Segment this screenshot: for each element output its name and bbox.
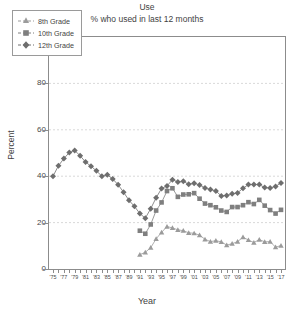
x-tick-mark: [227, 269, 228, 273]
diamond-marker: [224, 192, 230, 198]
x-tick-label: '17: [273, 274, 289, 280]
diamond-marker: [121, 189, 127, 195]
x-tick-mark: [276, 269, 277, 273]
triangle-marker: [213, 238, 218, 243]
x-tick-mark: [270, 269, 271, 273]
diamond-marker: [175, 179, 181, 185]
x-tick-mark: [53, 269, 54, 273]
x-tick-mark: [216, 269, 217, 273]
x-tick-mark: [64, 269, 65, 273]
x-tick-mark: [194, 269, 195, 273]
triangle-marker-icon: [18, 15, 34, 27]
x-tick-mark: [107, 269, 108, 273]
legend-label-12th: 12th Grade: [34, 41, 74, 50]
diamond-marker: [278, 180, 284, 186]
x-tick-mark: [134, 269, 135, 273]
diamond-marker: [159, 185, 165, 191]
square-marker-icon: [18, 27, 34, 39]
plot-area: [48, 36, 286, 270]
diamond-marker: [153, 195, 159, 201]
x-tick-mark: [210, 269, 211, 273]
triangle-marker: [278, 243, 283, 248]
triangle-marker: [137, 252, 142, 257]
x-tick-mark: [69, 269, 70, 273]
square-marker: [235, 205, 240, 210]
x-tick-mark: [91, 269, 92, 273]
triangle-marker: [229, 241, 234, 246]
series-line-10th-grade: [140, 188, 281, 233]
square-marker: [252, 202, 257, 207]
diamond-marker: [251, 182, 257, 188]
legend-label-10th: 10th Grade: [34, 29, 74, 38]
triangle-marker: [164, 224, 169, 229]
x-tick-mark: [248, 269, 249, 273]
square-marker: [186, 192, 191, 197]
square-marker: [230, 205, 235, 210]
legend-item-10th[interactable]: 10th Grade: [18, 27, 74, 39]
x-tick-mark: [259, 269, 260, 273]
diamond-marker: [245, 182, 251, 188]
triangle-marker: [186, 230, 191, 235]
legend-label-8th: 8th Grade: [34, 17, 70, 26]
y-tick-label: 20: [8, 218, 46, 227]
x-tick-mark: [183, 269, 184, 273]
diamond-marker: [207, 186, 213, 192]
x-tick-mark: [189, 269, 190, 273]
square-marker: [159, 200, 164, 205]
x-tick-mark: [254, 269, 255, 273]
diamond-marker-icon: [18, 39, 34, 51]
diamond-marker: [229, 191, 235, 197]
x-tick-mark: [167, 269, 168, 273]
x-tick-mark: [162, 269, 163, 273]
square-marker: [192, 191, 197, 196]
x-tick-mark: [113, 269, 114, 273]
square-marker: [273, 211, 278, 216]
square-marker: [214, 205, 219, 210]
triangle-marker: [240, 235, 245, 240]
x-tick-mark: [145, 269, 146, 273]
square-marker: [246, 200, 251, 205]
x-tick-mark: [156, 269, 157, 273]
diamond-marker: [267, 185, 273, 191]
x-axis-label: Year: [0, 296, 294, 306]
square-marker: [197, 196, 202, 201]
square-marker: [181, 192, 186, 197]
diamond-marker: [202, 185, 208, 191]
square-marker: [165, 189, 170, 194]
legend-item-8th[interactable]: 8th Grade: [18, 15, 74, 27]
x-tick-mark: [80, 269, 81, 273]
diamond-marker: [273, 183, 279, 189]
x-tick-mark: [86, 269, 87, 273]
diamond-marker: [180, 178, 186, 184]
diamond-marker: [186, 181, 192, 187]
x-tick-mark: [205, 269, 206, 273]
x-tick-mark: [281, 269, 282, 273]
square-marker: [262, 203, 267, 208]
square-marker: [241, 203, 246, 208]
square-marker: [170, 186, 175, 191]
x-tick-mark: [58, 269, 59, 273]
square-marker: [257, 198, 262, 203]
x-tick-mark: [172, 269, 173, 273]
x-tick-mark: [200, 269, 201, 273]
x-tick-mark: [238, 269, 239, 273]
square-marker: [224, 210, 229, 215]
square-marker: [138, 228, 143, 233]
x-tick-mark: [102, 269, 103, 273]
chart-legend: 8th Grade 10th Grade 12th Grade: [12, 10, 82, 56]
diamond-marker: [55, 163, 61, 169]
x-tick-mark: [178, 269, 179, 273]
square-marker: [208, 203, 213, 208]
square-marker: [143, 231, 148, 236]
square-marker: [268, 208, 273, 213]
x-tick-mark: [140, 269, 141, 273]
legend-item-12th[interactable]: 12th Grade: [18, 39, 74, 51]
diamond-marker: [148, 206, 154, 212]
x-tick-mark: [232, 269, 233, 273]
triangle-marker: [257, 237, 262, 242]
diamond-marker: [191, 180, 197, 186]
x-tick-mark: [124, 269, 125, 273]
square-marker: [154, 208, 159, 213]
square-marker: [219, 208, 224, 213]
square-marker: [279, 208, 284, 213]
